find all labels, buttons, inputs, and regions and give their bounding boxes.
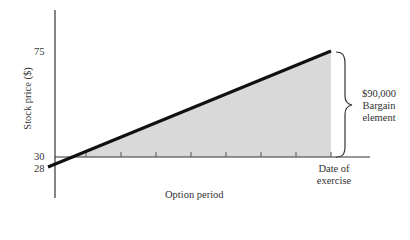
annotation-line-2: Bargain xyxy=(355,100,403,112)
annotation-amount: $90,000 xyxy=(355,88,403,100)
date-line-1: Date of xyxy=(312,163,356,175)
y-tick-28: 28 xyxy=(34,163,45,175)
y-tick-30: 30 xyxy=(34,151,45,163)
bracket-icon xyxy=(336,52,352,157)
y-tick-75: 75 xyxy=(34,46,45,58)
date-of-exercise-label: Date of exercise xyxy=(312,163,356,187)
annotation-line-3: element xyxy=(355,112,403,124)
x-axis-label: Option period xyxy=(165,189,224,201)
date-line-2: exercise xyxy=(312,175,356,187)
bargain-annotation: $90,000 Bargain element xyxy=(355,88,403,124)
y-axis-label: Stock price ($) xyxy=(22,59,33,139)
